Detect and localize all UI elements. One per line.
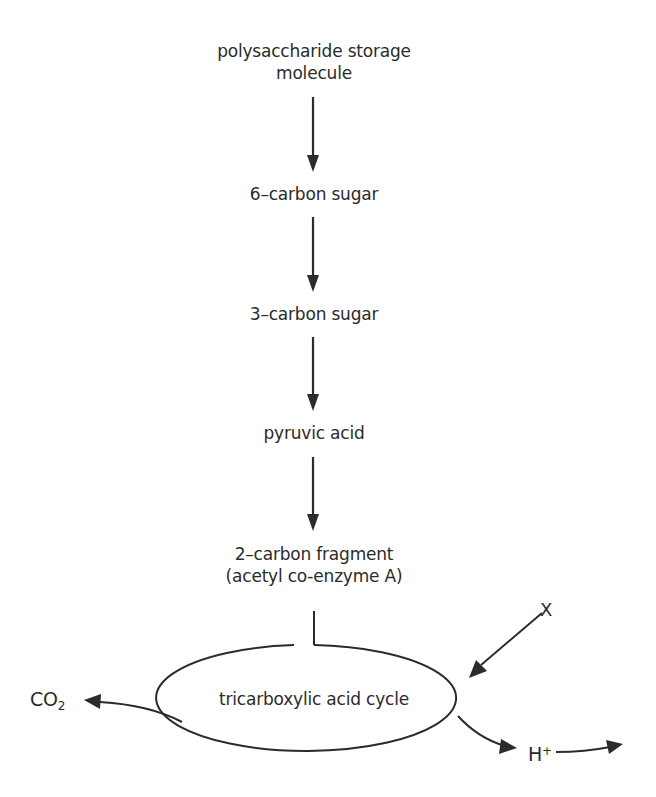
h-plus-base: H <box>528 743 542 765</box>
arrow-h-plus-onward <box>556 740 623 754</box>
node-two-carbon-line1: 2–carbon fragment <box>0 543 628 565</box>
node-polysaccharide-line2: molecule <box>0 62 628 84</box>
node-tca-cycle-label: tricarboxylic acid cycle <box>164 688 464 710</box>
node-x-input: X <box>540 599 552 621</box>
arrow-three-carbon-to-pyruvic <box>307 337 319 411</box>
arrow-six-carbon-to-three-carbon <box>307 217 319 292</box>
node-polysaccharide-line1: polysaccharide storage <box>0 40 628 62</box>
arrow-pyruvic-to-two-carbon <box>307 457 319 531</box>
node-h-plus: H+ <box>528 740 552 765</box>
arrow-cycle-to-h-plus <box>458 716 517 754</box>
pathway-diagram <box>0 0 656 797</box>
node-three-carbon-sugar: 3–carbon sugar <box>0 303 628 325</box>
node-six-carbon-sugar: 6–carbon sugar <box>0 183 628 205</box>
node-two-carbon-fragment: 2–carbon fragment (acetyl co-enzyme A) <box>0 543 628 587</box>
co2-base: CO <box>30 688 58 710</box>
arrow-x-to-cycle <box>469 613 542 678</box>
co2-subscript: 2 <box>58 699 65 713</box>
arrow-polysaccharide-to-six-carbon <box>307 97 319 172</box>
node-polysaccharide: polysaccharide storage molecule <box>0 40 628 84</box>
node-pyruvic-acid: pyruvic acid <box>0 422 628 444</box>
h-plus-superscript: + <box>542 744 552 758</box>
node-two-carbon-line2: (acetyl co-enzyme A) <box>0 565 628 587</box>
node-co2: CO2 <box>30 688 65 717</box>
